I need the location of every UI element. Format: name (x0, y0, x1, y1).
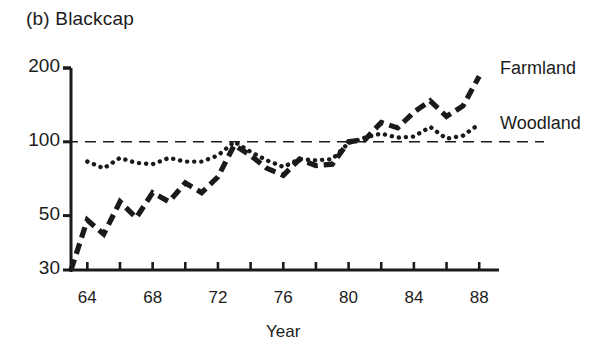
figure-blackcap-population-chart: (b) Blackcap 200 100 50 30 64 68 72 76 8… (0, 0, 602, 356)
legend-label-farmland: Farmland (500, 58, 576, 79)
data-series-group (71, 76, 479, 270)
series-line-farmland (71, 76, 479, 270)
legend-label-woodland: Woodland (500, 113, 581, 134)
x-tick-label-64: 64 (67, 288, 107, 308)
axes (63, 68, 499, 272)
x-tick-label-84: 84 (394, 288, 434, 308)
y-tick-label-200: 200 (14, 55, 60, 77)
page-title: (b) Blackcap (26, 8, 134, 30)
x-tick-label-80: 80 (329, 288, 369, 308)
x-axis-title: Year (243, 322, 323, 342)
series-line-woodland (87, 124, 479, 168)
y-tick-label-50: 50 (14, 203, 60, 225)
y-tick-label-100: 100 (14, 129, 60, 151)
x-tick-label-88: 88 (459, 288, 499, 308)
y-tick-label-30: 30 (14, 257, 60, 279)
x-tick-label-76: 76 (263, 288, 303, 308)
x-tick-label-72: 72 (198, 288, 238, 308)
x-tick-label-68: 68 (133, 288, 173, 308)
